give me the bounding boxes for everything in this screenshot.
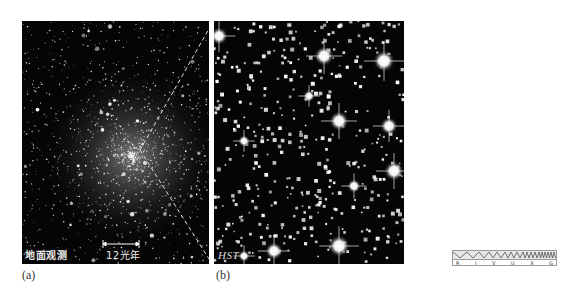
- caption-a: (a): [22, 268, 35, 283]
- hst-image: HST: [214, 21, 404, 264]
- scale-bar-label: 12光年: [106, 247, 141, 262]
- hst-label: HST: [218, 249, 239, 261]
- band-u: U: [511, 260, 515, 266]
- star-field-a: [22, 21, 209, 264]
- star-field-b: [214, 21, 404, 264]
- caption-b: (b): [216, 268, 230, 283]
- wave-icon: [453, 251, 556, 259]
- band-g: G: [549, 260, 553, 266]
- band-r: R: [456, 260, 459, 266]
- band-v: V: [492, 260, 495, 266]
- ground-observation-label: 地面观测: [25, 247, 67, 262]
- band-i: I: [475, 260, 476, 266]
- ground-observation-image: 地面观测 12光年: [22, 21, 209, 264]
- band-x: X: [530, 260, 533, 266]
- spectrum-band-icon: R I V U X G: [452, 250, 557, 266]
- band-letters: R I V U X G: [453, 259, 556, 266]
